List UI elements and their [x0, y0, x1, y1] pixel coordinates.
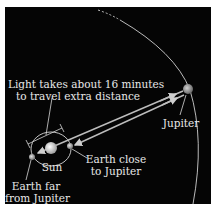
diagram-panel: Light takes about 16 minutes to travel e… [5, 7, 211, 204]
jupiter-icon [183, 84, 193, 94]
earth-far-label: Earth far from Jupiter [5, 180, 67, 204]
light-travel-label: Light takes about 16 minutes to travel e… [8, 78, 148, 102]
earth-far-line1: Earth far [5, 180, 67, 192]
earth-far-icon [29, 154, 35, 160]
jupiter-label-pointer [180, 95, 186, 115]
earth-close-line1: Earth close [83, 153, 149, 165]
earth-far-label-pointer [26, 160, 31, 180]
earth-close-icon [67, 143, 73, 149]
light-label-line1: Light takes about 16 minutes [8, 78, 148, 90]
jupiter-orbit-dashed [98, 10, 120, 20]
light-label-line2: to travel extra distance [8, 90, 148, 102]
earth-close-label: Earth close to Jupiter [83, 153, 149, 177]
light-label-pointer [46, 98, 52, 135]
earth-close-line2: to Jupiter [83, 165, 149, 177]
sun-icon [45, 142, 57, 154]
sun-label: Sun [37, 161, 67, 173]
earth-far-line2: from Jupiter [5, 192, 67, 204]
jupiter-label: Jupiter [156, 117, 206, 129]
